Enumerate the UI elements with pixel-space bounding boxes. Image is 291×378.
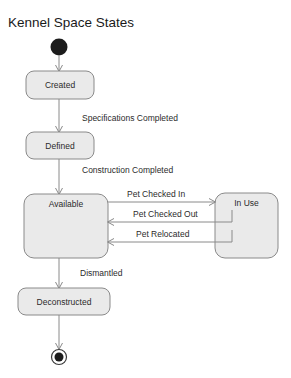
transition-label-pet-checked-in: Pet Checked In: [127, 189, 185, 199]
state-available-label: Available: [49, 199, 84, 209]
transition-label-pet-relocated: Pet Relocated: [136, 229, 190, 239]
transition-label-specifications-completed: Specifications Completed: [82, 113, 178, 123]
state-defined-label: Defined: [45, 141, 75, 151]
state-deconstructed-label: Deconstructed: [37, 297, 92, 307]
initial-state-node: [51, 39, 68, 56]
state-diagram-canvas: Kennel Space States Created Specificatio…: [0, 0, 291, 378]
transition-label-dismantled: Dismantled: [80, 268, 123, 278]
transition-label-pet-checked-out: Pet Checked Out: [133, 209, 198, 219]
state-created-label: Created: [45, 80, 76, 90]
transition-label-construction-completed: Construction Completed: [82, 165, 173, 175]
state-diagram: Kennel Space States Created Specificatio…: [0, 0, 291, 378]
page-title: Kennel Space States: [8, 15, 134, 30]
state-in-use-label: In Use: [234, 198, 259, 208]
final-state-core: [55, 353, 64, 362]
